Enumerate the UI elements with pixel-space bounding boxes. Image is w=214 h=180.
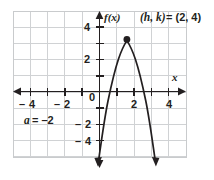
y-tick-label-neg2-minus: – [75,118,81,130]
a-annotation-variable: a [24,114,30,126]
y-axis [96,11,104,168]
vertex-annotation-variable: (h, k) [140,11,166,24]
y-tick-label-neg4-minus: – [75,135,81,147]
a-value-annotation: a = –2 [24,114,54,126]
x-tick-label-pos2: 2 [131,98,137,110]
x-axis-label: x [171,71,178,83]
a-annotation-value: = –2 [32,114,54,126]
x-tick-label-neg4: 4 [29,98,36,110]
y-tick-labels: 4 2 – 2 – 4 [75,21,92,147]
x-tick-label-pos4: 4 [166,98,173,110]
y-axis-label: f(x) [104,11,121,24]
y-tick-label-neg4: 4 [85,135,92,147]
x-tick-labels: – 4 – 2 0 2 4 [19,91,173,110]
coordinate-plane-svg: – 4 – 2 0 2 4 4 2 – 2 – 4 f(x) x (h, k) … [0,0,214,180]
x-tick-label-neg2: 2 [64,98,70,110]
x-tick-label-zero: 0 [89,91,95,103]
x-tick-label-neg2-minus: – [54,98,60,110]
x-tick-label-neg4-minus: – [19,98,25,110]
y-tick-label-pos4: 4 [84,21,91,33]
parabola-graph-figure: – 4 – 2 0 2 4 4 2 – 2 – 4 f(x) x (h, k) … [0,0,214,180]
vertex-annotation-value: = (2, 4) [166,11,201,23]
y-tick-label-neg2: 2 [85,118,91,130]
vertex-point-marker [124,36,131,43]
y-tick-label-pos2: 2 [84,53,90,65]
vertex-annotation: (h, k) = (2, 4) [140,11,201,24]
